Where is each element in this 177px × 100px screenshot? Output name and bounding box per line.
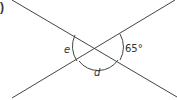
angle-arc-e (72, 35, 77, 61)
angle-label-65: 65° (125, 43, 143, 54)
angle-arc-65 (120, 34, 123, 60)
angle-label-d: d (94, 67, 101, 78)
angle-label-e: e (64, 44, 70, 55)
intersecting-lines-diagram: e 65° d (0, 0, 177, 100)
